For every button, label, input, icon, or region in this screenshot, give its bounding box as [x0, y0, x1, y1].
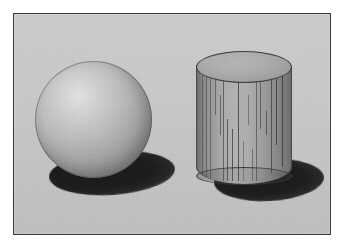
cylinder-top-face: [196, 51, 292, 83]
cylinder-bottom-edge: [196, 167, 292, 185]
rendered-image-canvas: [0, 0, 344, 247]
cylinder: [196, 51, 294, 186]
sphere-rim-shading: [35, 61, 152, 178]
sphere: [35, 61, 152, 178]
image-frame: [13, 13, 331, 235]
